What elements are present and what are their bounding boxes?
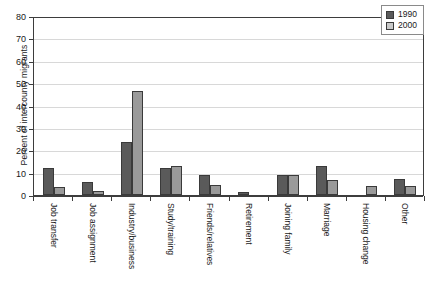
x-axis-tick-mark xyxy=(424,196,425,201)
bar-2000[interactable] xyxy=(288,175,299,195)
y-axis-tick-label: 0 xyxy=(2,192,26,201)
bar-2000[interactable] xyxy=(327,180,338,195)
plot-area xyxy=(33,17,424,196)
y-axis-tick-label: 60 xyxy=(2,58,26,67)
y-axis-tick-label: 30 xyxy=(2,125,26,134)
y-axis-tick-label: 50 xyxy=(2,80,26,89)
bar-2000[interactable] xyxy=(132,91,143,195)
x-axis-label-industry-business: Industry/business xyxy=(125,203,137,301)
x-axis-label-joining-family: Joining family xyxy=(281,203,293,301)
y-axis-tick-label: 40 xyxy=(2,103,26,112)
bar-group xyxy=(73,18,112,195)
bar-1990[interactable] xyxy=(238,192,249,195)
legend-item-1990[interactable]: 1990 xyxy=(386,9,417,20)
bar-1990[interactable] xyxy=(160,168,171,195)
bar-chart: Percent of intercounty migrants 80706050… xyxy=(0,0,432,301)
x-axis-tick-mark xyxy=(150,196,151,201)
x-axis-label-retirement: Retirement xyxy=(242,203,254,301)
x-axis-label-job-transfer: Job transfer xyxy=(47,203,59,301)
x-axis-label-study-training: Study/training xyxy=(164,203,176,301)
bar-2000[interactable] xyxy=(405,186,416,195)
x-axis-tick-mark xyxy=(268,196,269,201)
x-axis-tick-mark xyxy=(346,196,347,201)
y-axis-tick-label: 70 xyxy=(2,35,26,44)
x-axis-label-other: Other xyxy=(398,203,410,301)
x-axis-tick-mark xyxy=(189,196,190,201)
x-axis-tick-mark xyxy=(385,196,386,201)
legend-swatch-icon-2000 xyxy=(386,22,394,30)
bar-group xyxy=(34,18,73,195)
bar-2000[interactable] xyxy=(366,186,377,195)
bar-group xyxy=(386,18,425,195)
y-axis-tick-label: 20 xyxy=(2,147,26,156)
bar-1990[interactable] xyxy=(316,166,327,195)
x-axis-label-friends-relatives: Friends/relatives xyxy=(203,203,215,301)
bar-2000[interactable] xyxy=(93,191,104,195)
bar-group xyxy=(308,18,347,195)
bar-1990[interactable] xyxy=(121,142,132,195)
x-axis-label-housing-change: Housing change xyxy=(359,203,371,301)
bar-group xyxy=(190,18,229,195)
bar-2000[interactable] xyxy=(210,185,221,195)
legend-label-2000: 2000 xyxy=(398,21,417,30)
bar-1990[interactable] xyxy=(394,179,405,195)
bar-group xyxy=(230,18,269,195)
x-axis-tick-mark xyxy=(33,196,34,201)
x-axis-label-marriage: Marriage xyxy=(320,203,332,301)
bar-group xyxy=(347,18,386,195)
bar-series-container xyxy=(34,18,423,195)
bar-group xyxy=(269,18,308,195)
legend-label-1990: 1990 xyxy=(398,10,417,19)
bar-group xyxy=(151,18,190,195)
bar-group xyxy=(112,18,151,195)
x-axis-tick-mark xyxy=(111,196,112,201)
bar-2000[interactable] xyxy=(54,187,65,195)
x-axis-label-job-assignment: Job assignment xyxy=(86,203,98,301)
bar-2000[interactable] xyxy=(171,166,182,195)
bar-1990[interactable] xyxy=(82,182,93,195)
bar-1990[interactable] xyxy=(199,175,210,195)
x-axis-tick-mark xyxy=(307,196,308,201)
legend-item-2000[interactable]: 2000 xyxy=(386,20,417,31)
legend: 1990 2000 xyxy=(381,5,424,35)
x-axis-tick-mark xyxy=(229,196,230,201)
x-axis-tick-mark xyxy=(72,196,73,201)
y-axis-tick-label: 80 xyxy=(2,13,26,22)
bar-1990[interactable] xyxy=(277,175,288,195)
y-axis-tick-label: 10 xyxy=(2,170,26,179)
bar-1990[interactable] xyxy=(43,168,54,195)
legend-swatch-icon-1990 xyxy=(386,11,394,19)
